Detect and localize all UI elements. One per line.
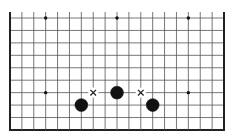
star-point-icon [44,91,47,94]
go-board-grid [0,0,231,139]
black-stone-icon[interactable] [75,99,88,112]
star-point-icon [187,16,190,19]
star-point-icon [187,91,190,94]
star-point-icon [44,16,47,19]
black-stone-icon[interactable] [146,99,159,112]
star-point-icon [115,16,118,19]
go-board-diagram [0,0,231,139]
black-stone-icon[interactable] [111,86,124,99]
